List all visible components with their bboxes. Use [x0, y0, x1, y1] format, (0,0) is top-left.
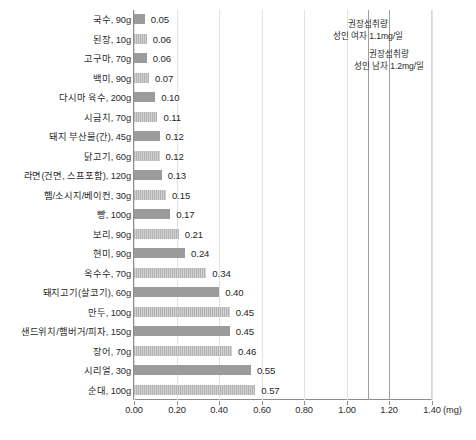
bar-value-label: 0.07 [155, 72, 173, 83]
bar [134, 170, 162, 180]
bar [134, 287, 219, 297]
bar-value-label: 0.57 [261, 384, 279, 395]
bar [134, 151, 160, 161]
bar [134, 229, 179, 239]
table-row: 돼지 부산물(간), 45g0.12 [0, 127, 476, 146]
annotation-line-2: 성인 남자 1.2mg/일 [354, 60, 424, 72]
bar-category-label: 돼지고기(살코기), 60g [43, 285, 131, 299]
bar [134, 190, 166, 200]
bar-category-label: 라면(건면, 스프포함), 120g [24, 168, 131, 182]
bar-category-label: 국수, 90g [93, 12, 131, 26]
x-axis-tick-label: 1.00 [338, 405, 356, 415]
annotation-line-1: 권장섭취량 [333, 18, 403, 30]
bar-value-label: 0.21 [185, 228, 203, 239]
x-axis-unit-label: (mg) [443, 405, 462, 415]
table-row: 장어, 70g0.46 [0, 342, 476, 361]
bar-value-label: 0.10 [161, 92, 179, 103]
table-row: 햄/소시지/베이컨, 30g0.15 [0, 186, 476, 205]
table-row: 시리얼, 30g0.55 [0, 361, 476, 380]
bar-value-label: 0.11 [163, 111, 181, 122]
bar-category-label: 시금치, 70g [84, 110, 131, 124]
bar [134, 326, 230, 336]
bar-category-label: 샌드위치/햄버거/피자, 150g [21, 324, 131, 338]
bar-value-label: 0.55 [257, 365, 275, 376]
table-row: 시금치, 70g0.11 [0, 108, 476, 127]
bar-value-label: 0.05 [151, 14, 169, 25]
bar [134, 307, 230, 317]
bar-value-label: 0.34 [212, 267, 230, 278]
bar-category-label: 백미, 90g [93, 71, 131, 85]
bar-category-label: 빵, 100g [97, 207, 131, 221]
x-axis-tick-label: 0.60 [253, 405, 271, 415]
annotation-line-2: 성인 여자 1.1mg/일 [333, 30, 403, 42]
bar [134, 268, 206, 278]
table-row: 현미, 90g0.24 [0, 244, 476, 263]
x-axis-tick-label: 1.20 [380, 405, 398, 415]
table-row: 만두, 100g0.45 [0, 303, 476, 322]
bar-category-label: 햄/소시지/베이컨, 30g [44, 188, 131, 202]
bar [134, 92, 155, 102]
table-row: 닭고기, 60g0.12 [0, 147, 476, 166]
bar-category-label: 다시마 육수, 200g [59, 90, 131, 104]
bar [134, 346, 232, 356]
bar-category-label: 순대, 100g [88, 383, 131, 397]
bar-value-label: 0.24 [191, 248, 209, 259]
x-axis-tick-label: 0.00 [125, 405, 143, 415]
table-row: 라면(건면, 스프포함), 120g0.13 [0, 166, 476, 185]
bar [134, 73, 149, 83]
x-axis-tick-label: 0.40 [210, 405, 228, 415]
bar [134, 131, 160, 141]
table-row: 순대, 100g0.57 [0, 381, 476, 400]
bar-value-label: 0.15 [172, 189, 190, 200]
bar-category-label: 된장, 10g [93, 32, 131, 46]
table-row: 된장, 10g0.06 [0, 30, 476, 49]
bar-value-label: 0.12 [166, 131, 184, 142]
bar-category-label: 보리, 90g [93, 227, 131, 241]
bar [134, 365, 251, 375]
bar [134, 34, 147, 44]
bar-category-label: 만두, 100g [88, 305, 131, 319]
bar-category-label: 현미, 90g [93, 246, 131, 260]
bar-value-label: 0.45 [236, 326, 254, 337]
bar-category-label: 시리얼, 30g [84, 363, 131, 377]
bar-value-label: 0.06 [153, 53, 171, 64]
table-row: 빵, 100g0.17 [0, 205, 476, 224]
bar-category-label: 돼지 부산물(간), 45g [49, 129, 131, 143]
bar [134, 248, 185, 258]
bar-category-label: 옥수수, 70g [84, 266, 131, 280]
reference-annotation: 권장섭취량성인 남자 1.2mg/일 [354, 48, 424, 72]
bar-value-label: 0.06 [153, 33, 171, 44]
annotation-line-1: 권장섭취량 [354, 48, 424, 60]
bar-value-label: 0.13 [168, 170, 186, 181]
bar-value-label: 0.45 [236, 306, 254, 317]
table-row: 돼지고기(살코기), 60g0.40 [0, 283, 476, 302]
bar-value-label: 0.17 [176, 209, 194, 220]
x-axis-tick-label: 0.20 [168, 405, 186, 415]
table-row: 다시마 육수, 200g0.10 [0, 88, 476, 107]
bar-category-label: 장어, 70g [93, 344, 131, 358]
bar [134, 112, 157, 122]
bar-value-label: 0.46 [238, 345, 256, 356]
table-row: 국수, 90g0.05 [0, 10, 476, 29]
bar [134, 53, 147, 63]
table-row: 샌드위치/햄버거/피자, 150g0.45 [0, 322, 476, 341]
bar-value-label: 0.40 [225, 287, 243, 298]
bar [134, 209, 170, 219]
x-axis-tick-label: 1.40 [423, 405, 441, 415]
bar [134, 385, 255, 395]
bar-value-label: 0.12 [166, 150, 184, 161]
bar-category-label: 닭고기, 60g [84, 149, 131, 163]
bar [134, 14, 145, 24]
x-axis-tick-label: 0.80 [295, 405, 313, 415]
table-row: 보리, 90g0.21 [0, 225, 476, 244]
bar-category-label: 고구마, 70g [84, 51, 131, 65]
table-row: 옥수수, 70g0.34 [0, 264, 476, 283]
chart-canvas: 국수, 90g0.05된장, 10g0.06고구마, 70g0.06백미, 90… [0, 0, 476, 440]
reference-annotation: 권장섭취량성인 여자 1.1mg/일 [333, 18, 403, 42]
